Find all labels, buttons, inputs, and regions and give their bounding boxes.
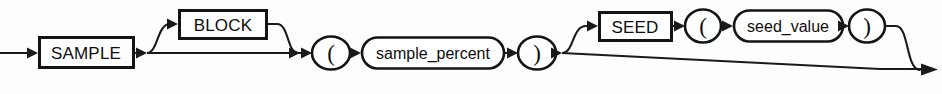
railroad-diagram-container: SAMPLE BLOCK ( bbox=[0, 0, 942, 94]
node-close-paren-1[interactable]: ) bbox=[518, 37, 556, 70]
close-paren-1-label: ) bbox=[533, 41, 541, 66]
open-paren-1-label: ( bbox=[327, 41, 335, 66]
entry-track bbox=[0, 48, 38, 59]
node-open-paren-1[interactable]: ( bbox=[312, 37, 350, 70]
node-block-keyword[interactable]: BLOCK bbox=[180, 11, 267, 39]
node-sample-percent[interactable]: sample_percent bbox=[362, 38, 504, 69]
sample-percent-label: sample_percent bbox=[376, 45, 490, 63]
paren2-to-seedvalue-track bbox=[721, 21, 733, 32]
entry-arrowhead bbox=[27, 48, 38, 59]
seed-value-arrowhead bbox=[722, 21, 733, 32]
sample-percent-arrowhead bbox=[350, 48, 361, 59]
seed-bypass-track bbox=[562, 53, 930, 69]
seed-keyword-label: SEED bbox=[611, 18, 658, 37]
open-paren-1-arrowhead bbox=[301, 48, 312, 59]
sample-keyword-label: SAMPLE bbox=[51, 44, 121, 63]
close-paren-2-label: ) bbox=[863, 14, 871, 39]
open-paren-2-arrowhead bbox=[674, 21, 685, 32]
railroad-diagram-svg: SAMPLE BLOCK ( bbox=[0, 0, 942, 94]
percent-to-paren-track bbox=[505, 48, 518, 59]
node-open-paren-2[interactable]: ( bbox=[685, 10, 721, 43]
node-seed-value[interactable]: seed_value bbox=[734, 11, 843, 42]
block-bypass-track bbox=[147, 48, 312, 59]
block-branch-arrowhead bbox=[136, 48, 147, 59]
paren1-to-percent-track bbox=[350, 48, 361, 59]
node-seed-keyword[interactable]: SEED bbox=[600, 13, 672, 41]
seed-value-label: seed_value bbox=[747, 18, 829, 36]
sample-to-branch-track bbox=[134, 48, 147, 59]
open-paren-2-label: ( bbox=[699, 14, 707, 39]
block-merge-arrowhead bbox=[289, 48, 300, 59]
close-paren-1-arrowhead bbox=[507, 48, 518, 59]
seed-branch-return-track bbox=[885, 26, 920, 70]
exit-arrowhead bbox=[921, 64, 938, 76]
node-sample-keyword[interactable]: SAMPLE bbox=[40, 38, 134, 68]
block-entry-arrowhead bbox=[167, 19, 178, 30]
seed-entry-arrowhead bbox=[587, 21, 598, 32]
seed-to-paren2-track bbox=[672, 21, 685, 32]
block-keyword-label: BLOCK bbox=[194, 16, 253, 35]
exit-track bbox=[918, 64, 938, 76]
node-close-paren-2[interactable]: ) bbox=[849, 10, 885, 43]
